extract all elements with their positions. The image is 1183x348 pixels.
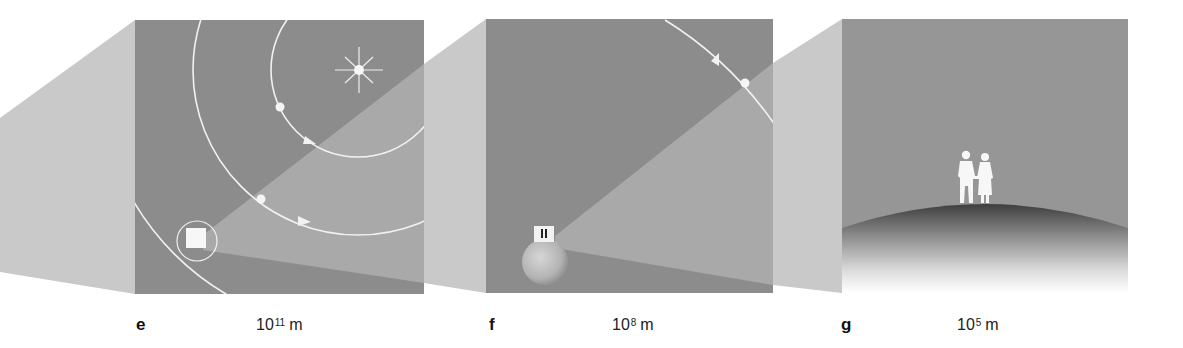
scale-base: 10	[612, 316, 630, 333]
funnel-f-to-g	[773, 19, 842, 293]
earth-horizon-hill	[842, 204, 1128, 293]
panel-label-g: g	[841, 315, 851, 335]
earth-globe	[522, 239, 568, 285]
moon-dot	[741, 79, 750, 88]
panel-label-e: e	[136, 315, 145, 335]
scale-unit: m	[985, 316, 998, 333]
scale-exponent: 8	[631, 317, 637, 328]
planet-dot	[276, 103, 285, 112]
scale-base: 10	[256, 316, 274, 333]
scale-unit: m	[640, 316, 653, 333]
incoming-funnel	[0, 20, 135, 294]
scale-unit: m	[289, 316, 302, 333]
panel-label-f: f	[489, 315, 495, 335]
scale-exponent: 5	[976, 317, 982, 328]
earth-dot	[257, 195, 266, 204]
scale-caption-e: 1011m	[256, 315, 303, 335]
scale-base: 10	[957, 316, 975, 333]
scale-caption-g: 105m	[957, 315, 999, 335]
funnel-e-to-f	[424, 19, 486, 293]
earth-highlight-box	[186, 228, 206, 248]
scale-caption-f: 108m	[612, 315, 654, 335]
panel-g	[842, 19, 1128, 293]
people-highlight-box	[534, 226, 554, 242]
scale-exponent: 11	[275, 317, 285, 328]
panel-f	[486, 19, 775, 293]
powers-of-ten-diagram	[0, 0, 1183, 348]
